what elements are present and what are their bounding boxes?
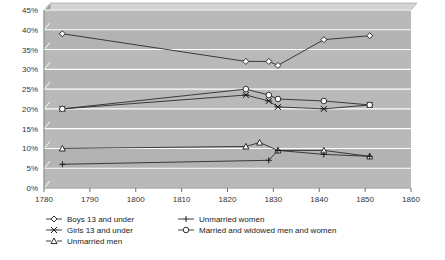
x-tick-label: 1850 bbox=[356, 195, 374, 204]
plot-band bbox=[44, 10, 411, 30]
data-point-circle-marker bbox=[367, 102, 373, 108]
legend-item[interactable]: Girls 13 and under bbox=[46, 226, 133, 235]
x-tick-label: 1790 bbox=[81, 195, 99, 204]
legend-item[interactable]: Married and widowed men and women bbox=[178, 226, 336, 235]
legend-item-label: Girls 13 and under bbox=[67, 226, 133, 235]
plot-band bbox=[44, 109, 411, 129]
plot-band bbox=[44, 69, 411, 89]
plot-band bbox=[44, 168, 411, 188]
legend-triangle-marker bbox=[51, 238, 57, 244]
y-tick-label: 5% bbox=[26, 164, 38, 173]
legend-item-label: Married and widowed men and women bbox=[199, 226, 336, 235]
legend: Boys 13 and underGirls 13 and underUnmar… bbox=[46, 215, 336, 246]
y-tick-label: 20% bbox=[22, 105, 38, 114]
legend-item-label: Unmarried women bbox=[199, 215, 264, 224]
chart-container: 0%5%10%15%20%25%30%35%40%45%178017901800… bbox=[0, 0, 445, 260]
data-point-circle-marker bbox=[275, 96, 281, 102]
legend-circle-marker bbox=[183, 227, 189, 233]
legend-item-label: Unmarried men bbox=[67, 237, 122, 246]
legend-x-marker bbox=[51, 227, 58, 233]
x-tick-label: 1800 bbox=[127, 195, 145, 204]
x-tick-label: 1820 bbox=[219, 195, 237, 204]
data-point-circle-marker bbox=[60, 106, 66, 112]
y-tick-label: 45% bbox=[22, 6, 38, 15]
data-point-circle-marker bbox=[266, 92, 272, 98]
legend-diamond-marker bbox=[51, 216, 57, 222]
x-tick-label: 1780 bbox=[35, 195, 53, 204]
plot-ceiling bbox=[44, 3, 417, 10]
plot-band bbox=[44, 50, 411, 70]
plot-band bbox=[44, 129, 411, 149]
data-point-circle-marker bbox=[321, 98, 327, 104]
y-tick-label: 0% bbox=[26, 184, 38, 193]
x-tick-label: 1830 bbox=[264, 195, 282, 204]
data-point-circle-marker bbox=[243, 86, 249, 92]
x-tick-label: 1860 bbox=[402, 195, 420, 204]
legend-item[interactable]: Boys 13 and under bbox=[46, 215, 134, 224]
y-tick-label: 25% bbox=[22, 85, 38, 94]
y-tick-label: 40% bbox=[22, 26, 38, 35]
legend-item-label: Boys 13 and under bbox=[67, 215, 134, 224]
x-tick-label: 1810 bbox=[173, 195, 191, 204]
y-tick-label: 35% bbox=[22, 46, 38, 55]
line-chart: 0%5%10%15%20%25%30%35%40%45%178017901800… bbox=[0, 0, 445, 260]
legend-item[interactable]: Unmarried women bbox=[178, 215, 264, 224]
legend-item[interactable]: Unmarried men bbox=[46, 237, 122, 246]
legend-plus-marker bbox=[183, 216, 189, 222]
x-axis: 178017901800181018201830184018501860 bbox=[35, 188, 420, 204]
plot-band bbox=[44, 148, 411, 168]
x-tick-label: 1840 bbox=[310, 195, 328, 204]
y-tick-label: 15% bbox=[22, 125, 38, 134]
y-tick-label: 30% bbox=[22, 65, 38, 74]
y-axis: 0%5%10%15%20%25%30%35%40%45% bbox=[22, 6, 38, 193]
y-tick-label: 10% bbox=[22, 144, 38, 153]
